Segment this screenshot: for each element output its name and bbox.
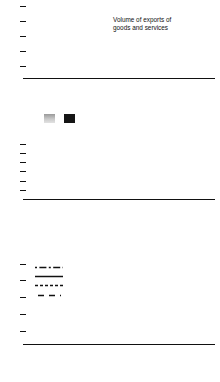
bottom-chart-x-axis	[23, 344, 215, 345]
middle-chart-plot-area	[23, 143, 215, 199]
middle-chart-x-axis	[23, 199, 215, 200]
annotation-exports-line2: goods and services	[113, 24, 168, 32]
legend-swatch-developing-countries	[44, 114, 55, 123]
legend-swatch-developing-excl-nics	[64, 114, 75, 123]
middle-chart-legend	[44, 114, 220, 132]
top-line-chart: Volume of exports of goods and services	[0, 0, 220, 96]
bottom-line-chart	[0, 246, 220, 382]
middle-bar-chart	[0, 96, 220, 246]
annotation-exports-line1: Volume of exports of	[113, 16, 171, 24]
top-chart-x-axis	[23, 78, 215, 79]
bottom-chart-plot-area	[23, 260, 215, 344]
top-chart-plot-area	[23, 2, 215, 78]
